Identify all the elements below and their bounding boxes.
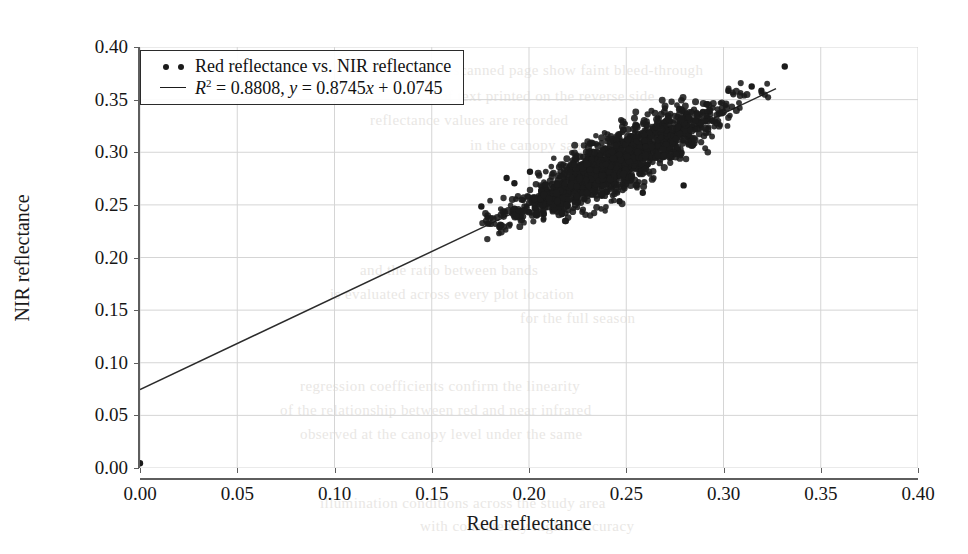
x-tick-mark bbox=[140, 468, 141, 473]
x-tick-label: 0.00 bbox=[123, 483, 156, 505]
x-tick-mark bbox=[432, 468, 433, 473]
y-tick-mark bbox=[134, 47, 139, 48]
x-tick-label: 0.35 bbox=[804, 483, 837, 505]
x-symbol: x bbox=[366, 78, 374, 98]
x-axis-line bbox=[140, 478, 918, 480]
x-tick-label: 0.40 bbox=[901, 483, 934, 505]
line-marker-icon bbox=[151, 87, 195, 89]
r-symbol: R bbox=[195, 78, 206, 98]
r-value: = 0.8808, bbox=[212, 78, 290, 98]
plot-area bbox=[140, 47, 918, 468]
x-tick-mark bbox=[918, 468, 919, 473]
scatter-marker-icon bbox=[151, 64, 195, 70]
y-tick-label: 0.30 bbox=[95, 141, 128, 163]
y-tick-mark bbox=[134, 468, 139, 469]
legend-item-scatter: Red reflectance vs. NIR reflectance bbox=[151, 56, 451, 77]
y-tick-label: 0.25 bbox=[95, 194, 128, 216]
y-symbol: y bbox=[289, 78, 297, 98]
intercept-text: + 0.0745 bbox=[374, 78, 443, 98]
y-tick-mark bbox=[134, 363, 139, 364]
y-tick-mark bbox=[134, 310, 139, 311]
y-tick-label: 0.20 bbox=[95, 247, 128, 269]
y-tick-label: 0.40 bbox=[95, 36, 128, 58]
y-tick-label: 0.35 bbox=[95, 89, 128, 111]
x-tick-label: 0.20 bbox=[512, 483, 545, 505]
y-tick-mark bbox=[134, 205, 139, 206]
x-tick-label: 0.25 bbox=[610, 483, 643, 505]
legend-label-fit: R2 = 0.8808, y = 0.8745x + 0.0745 bbox=[195, 77, 442, 99]
y-tick-label: 0.10 bbox=[95, 352, 128, 374]
y-tick-label: 0.00 bbox=[95, 457, 128, 479]
legend-label-scatter: Red reflectance vs. NIR reflectance bbox=[195, 56, 451, 77]
y-tick-label: 0.05 bbox=[95, 404, 128, 426]
scatter-chart-figure: 0.000.050.100.150.200.250.300.350.400.00… bbox=[0, 0, 968, 554]
x-tick-label: 0.15 bbox=[415, 483, 448, 505]
legend-item-fit: R2 = 0.8808, y = 0.8745x + 0.0745 bbox=[151, 77, 451, 98]
scatter-points bbox=[140, 47, 918, 468]
slope-text: = 0.8745 bbox=[297, 78, 366, 98]
x-tick-label: 0.05 bbox=[221, 483, 254, 505]
x-tick-mark bbox=[335, 468, 336, 473]
x-tick-mark bbox=[626, 468, 627, 473]
chart-legend: Red reflectance vs. NIR reflectance R2 =… bbox=[140, 50, 464, 105]
x-tick-mark bbox=[237, 468, 238, 473]
y-tick-label: 0.15 bbox=[95, 299, 128, 321]
y-tick-mark bbox=[134, 152, 139, 153]
x-axis-title: Red reflectance bbox=[467, 512, 592, 535]
y-tick-mark bbox=[134, 100, 139, 101]
y-tick-mark bbox=[134, 415, 139, 416]
y-axis-title: NIR reflectance bbox=[11, 194, 34, 321]
x-tick-mark bbox=[724, 468, 725, 473]
y-tick-mark bbox=[134, 258, 139, 259]
x-tick-mark bbox=[821, 468, 822, 473]
x-tick-label: 0.10 bbox=[318, 483, 351, 505]
x-tick-mark bbox=[529, 468, 530, 473]
x-tick-label: 0.30 bbox=[707, 483, 740, 505]
